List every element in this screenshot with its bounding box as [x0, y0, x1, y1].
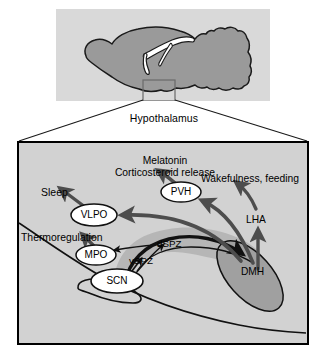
brain-outline-shape [85, 27, 251, 91]
label-wakefulness-feeding: Wakefulness, feeding [201, 173, 299, 185]
label-vspz: vSPZ [129, 256, 153, 267]
sagittal-brain-panel [56, 9, 270, 101]
label-pvh: PVH [161, 186, 201, 197]
label-lha: LHA [246, 214, 266, 225]
label-dmh: DMH [241, 266, 264, 277]
figure-root: Hypothalamus [0, 0, 326, 355]
label-mpo: MPO [76, 249, 116, 260]
label-scn: SCN [97, 275, 137, 286]
label-dspz: dSPZ [157, 239, 182, 250]
label-sleep: Sleep [41, 187, 68, 199]
brain-illustration [56, 9, 270, 101]
hypothalamus-detail-panel: Melatonin Corticosteroid release Wakeful… [17, 141, 309, 345]
hypothalamus-caption: Hypothalamus [108, 112, 220, 124]
label-thermoregulation: Thermoregulation [21, 232, 102, 244]
arrow-lha-to-wakefulness [237, 183, 256, 209]
label-melatonin: Melatonin [143, 155, 188, 166]
label-vlpo: VLPO [71, 209, 117, 220]
